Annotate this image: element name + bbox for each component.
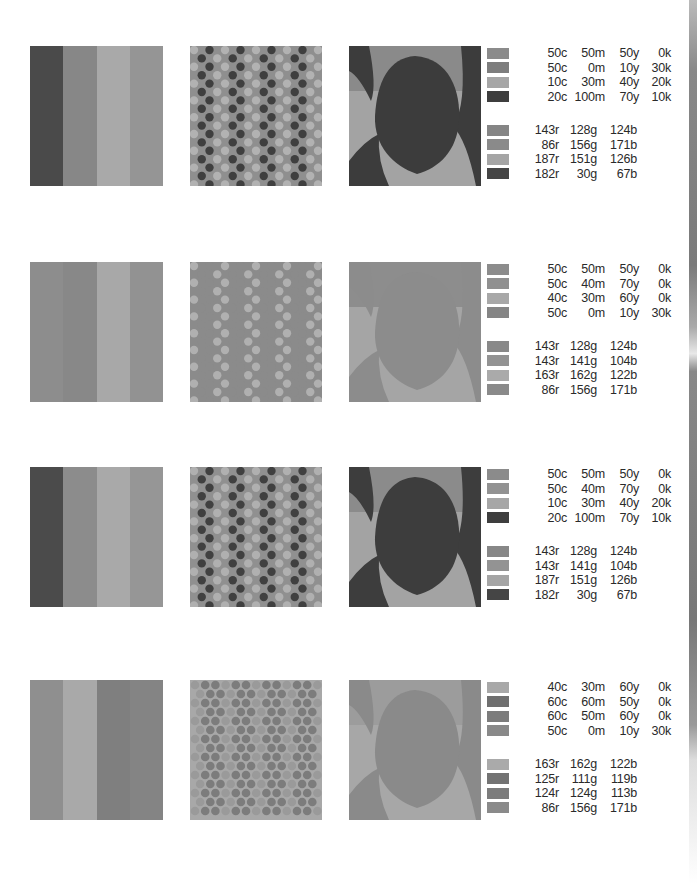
blue-value: 67b	[597, 167, 637, 181]
blue-value: 104b	[597, 559, 637, 573]
red-value: 124r	[509, 786, 559, 800]
red-value: 143r	[509, 339, 559, 353]
cmyk-entry: 50c0m10y30k	[487, 724, 677, 739]
cmyk-entry: 60c50m60y0k	[487, 709, 677, 724]
sample-row-3: 50c50m50y0k50c40m70y0k10c30m40y20k20c100…	[0, 467, 697, 609]
yellow-value: 70y	[605, 482, 639, 496]
red-value: 187r	[509, 573, 559, 587]
cyan-value: 20c	[509, 90, 567, 104]
cyan-value: 60c	[509, 709, 567, 723]
sample-row-2: 50c50m50y0k50c40m70y0k40c30m60y0k50c0m10…	[0, 262, 697, 404]
magenta-value: 60m	[567, 695, 605, 709]
sample-row-1: 50c50m50y0k50c0m10y30k10c30m40y20k20c100…	[0, 46, 697, 188]
red-value: 143r	[509, 559, 559, 573]
blue-value: 113b	[597, 786, 637, 800]
cyan-value: 40c	[509, 680, 567, 694]
cyan-value: 10c	[509, 75, 567, 89]
stripe-2	[63, 46, 96, 186]
stripe-2	[63, 262, 96, 402]
cyan-value: 10c	[509, 496, 567, 510]
black-value: 0k	[639, 46, 671, 60]
stripe-sample	[30, 680, 163, 820]
cmyk-entry: 50c50m50y0k	[487, 46, 677, 61]
cmyk-entry: 50c0m10y30k	[487, 61, 677, 76]
stripe-1	[30, 467, 63, 607]
color-swatch	[487, 341, 509, 352]
page-edge-bar	[689, 0, 697, 884]
rgb-entry: 86r156g171b	[487, 383, 677, 398]
rgb-entry: 182r30g67b	[487, 167, 677, 182]
rgb-entry: 143r128g124b	[487, 544, 677, 559]
green-value: 30g	[559, 167, 597, 181]
stripe-sample	[30, 46, 163, 186]
magenta-value: 0m	[567, 61, 605, 75]
shape-pattern-sample	[349, 46, 481, 186]
stripe-4	[130, 467, 163, 607]
color-swatch	[487, 546, 509, 557]
shape-pattern-sample	[349, 467, 481, 607]
black-value: 20k	[639, 496, 671, 510]
color-swatch	[487, 773, 509, 784]
rgb-key: 143r128g124b143r141g104b163r162g122b86r1…	[487, 339, 677, 397]
cyan-value: 60c	[509, 695, 567, 709]
blue-value: 122b	[597, 368, 637, 382]
yellow-value: 50y	[605, 46, 639, 60]
dot-pattern-sample	[190, 680, 322, 820]
magenta-value: 30m	[567, 75, 605, 89]
blue-value: 119b	[597, 772, 637, 786]
cmyk-entry: 50c40m70y0k	[487, 482, 677, 497]
black-value: 0k	[639, 482, 671, 496]
black-value: 30k	[639, 61, 671, 75]
cmyk-entry: 50c40m70y0k	[487, 277, 677, 292]
cmyk-entry: 50c50m50y0k	[487, 467, 677, 482]
color-swatch	[487, 802, 509, 813]
magenta-value: 100m	[567, 511, 605, 525]
color-swatch	[487, 711, 509, 722]
green-value: 151g	[559, 152, 597, 166]
green-value: 30g	[559, 588, 597, 602]
color-swatch	[487, 139, 509, 150]
red-value: 182r	[509, 588, 559, 602]
yellow-value: 10y	[605, 61, 639, 75]
cmyk-entry: 60c60m50y0k	[487, 695, 677, 710]
cmyk-entry: 40c30m60y0k	[487, 680, 677, 695]
rgb-entry: 125r111g119b	[487, 772, 677, 787]
green-value: 128g	[559, 544, 597, 558]
dot-pattern-sample	[190, 467, 322, 607]
yellow-value: 40y	[605, 75, 639, 89]
green-value: 111g	[559, 772, 597, 786]
color-legend: 40c30m60y0k60c60m50y0k60c50m60y0k50c0m10…	[487, 680, 677, 822]
color-swatch	[487, 498, 509, 509]
color-swatch	[487, 696, 509, 707]
blue-value: 104b	[597, 354, 637, 368]
cyan-value: 50c	[509, 277, 567, 291]
magenta-value: 50m	[567, 709, 605, 723]
rgb-entry: 143r128g124b	[487, 123, 677, 138]
color-swatch	[487, 62, 509, 73]
stripe-2	[63, 467, 96, 607]
rgb-key: 143r128g124b86r156g171b187r151g126b182r3…	[487, 123, 677, 181]
red-value: 143r	[509, 123, 559, 137]
stripe-4	[130, 46, 163, 186]
blue-value: 126b	[597, 152, 637, 166]
color-swatch	[487, 264, 509, 275]
cmyk-key: 50c50m50y0k50c0m10y30k10c30m40y20k20c100…	[487, 46, 677, 104]
black-value: 0k	[639, 695, 671, 709]
color-swatch	[487, 125, 509, 136]
shape-pattern-sample	[349, 262, 481, 402]
red-value: 163r	[509, 368, 559, 382]
cmyk-entry: 50c50m50y0k	[487, 262, 677, 277]
color-swatch	[487, 384, 509, 395]
black-value: 30k	[639, 306, 671, 320]
stripe-3	[97, 680, 130, 820]
yellow-value: 60y	[605, 680, 639, 694]
color-swatch	[487, 483, 509, 494]
black-value: 30k	[639, 724, 671, 738]
stripe-3	[97, 262, 130, 402]
color-swatch	[487, 725, 509, 736]
color-swatch	[487, 682, 509, 693]
red-value: 86r	[509, 138, 559, 152]
red-value: 125r	[509, 772, 559, 786]
stripe-1	[30, 680, 63, 820]
stripe-sample	[30, 467, 163, 607]
